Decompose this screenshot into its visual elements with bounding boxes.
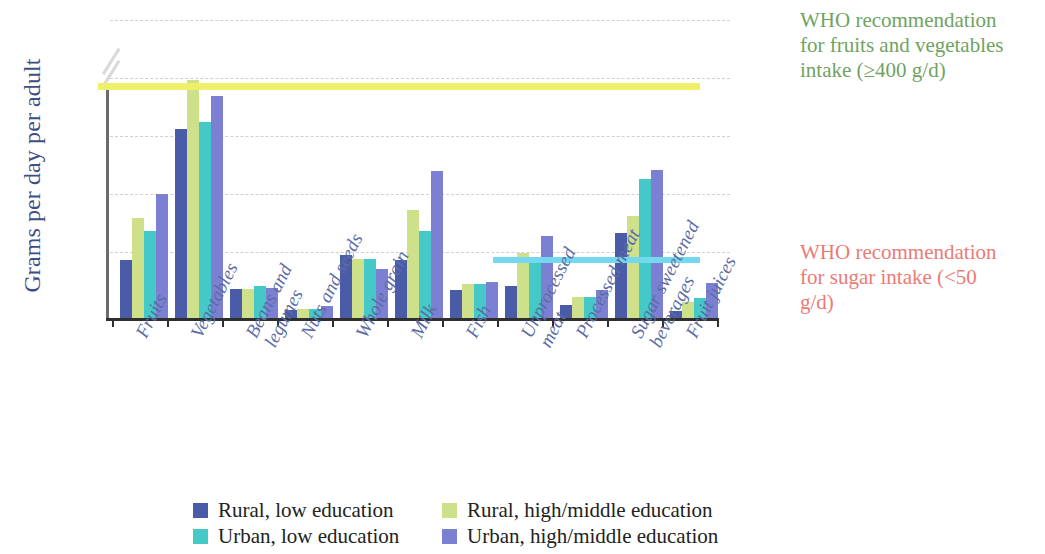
y-axis-line xyxy=(106,86,109,318)
x-tick xyxy=(717,318,719,327)
bar xyxy=(187,80,199,318)
x-tick xyxy=(167,318,169,327)
x-tick xyxy=(332,318,334,327)
bar-chart: Grams per day per adult 400 200 150 100 … xyxy=(0,0,1045,554)
legend-label-urban-low: Urban, low education xyxy=(218,526,399,547)
y-axis-title: Grams per day per adult xyxy=(19,16,46,336)
bar xyxy=(431,171,443,318)
bar xyxy=(230,289,242,318)
x-tick xyxy=(442,318,444,327)
legend: Rural, low education Rural, high/middle … xyxy=(193,500,833,552)
bar-group xyxy=(120,20,168,318)
legend-item-rural-high: Rural, high/middle education xyxy=(442,500,713,521)
bar xyxy=(175,129,187,318)
bar xyxy=(505,286,517,318)
x-tick xyxy=(112,318,114,327)
legend-row-2: Urban, low education Urban, high/middle … xyxy=(193,526,833,552)
bar xyxy=(120,260,132,318)
who-vegetables-annotation: WHO recommendation for fruits and vegeta… xyxy=(800,8,1015,82)
legend-swatch-rural-high xyxy=(442,503,457,518)
legend-label-rural-high: Rural, high/middle education xyxy=(467,500,713,521)
legend-item-urban-high: Urban, high/middle education xyxy=(442,526,718,547)
who-sugar-annotation: WHO recommendation for sugar intake (<50… xyxy=(800,240,1015,314)
legend-swatch-urban-high xyxy=(442,529,457,544)
x-tick xyxy=(387,318,389,327)
legend-swatch-rural-low xyxy=(193,503,208,518)
legend-label-urban-high: Urban, high/middle education xyxy=(467,526,718,547)
x-tick xyxy=(607,318,609,327)
legend-swatch-urban-low xyxy=(193,529,208,544)
bar xyxy=(450,290,462,318)
who-vegetables-reference-line xyxy=(98,83,700,90)
legend-item-urban-low: Urban, low education xyxy=(193,526,442,547)
x-tick xyxy=(222,318,224,327)
bar xyxy=(132,218,144,318)
bar-group xyxy=(450,20,498,318)
legend-row-1: Rural, low education Rural, high/middle … xyxy=(193,500,833,526)
x-tick xyxy=(497,318,499,327)
legend-item-rural-low: Rural, low education xyxy=(193,500,442,521)
legend-label-rural-low: Rural, low education xyxy=(218,500,394,521)
